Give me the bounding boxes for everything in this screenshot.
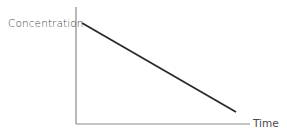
concentration-time-chart: Concentration Time [0, 0, 287, 136]
x-axis-label: Time [253, 117, 279, 129]
data-line [82, 23, 236, 112]
y-axis-label: Concentration [8, 17, 84, 29]
